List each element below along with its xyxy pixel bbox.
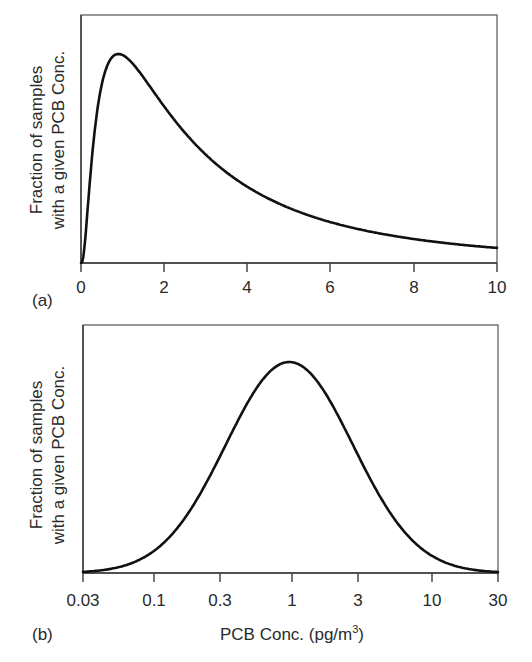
panel-b-distribution-curve <box>83 362 498 572</box>
panel-a-y-label-line1: Fraction of samples <box>27 66 46 214</box>
tick-label: 0 <box>76 278 85 297</box>
tick-label: 10 <box>423 591 442 610</box>
panel-a-distribution-curve <box>81 54 497 263</box>
panel-a-label: (a) <box>32 291 53 310</box>
panel-b-label: (b) <box>32 625 53 644</box>
tick-label: 1 <box>287 591 296 610</box>
panel-a-x-tick-labels: 0 2 4 6 8 10 <box>76 278 506 297</box>
panel-a: 0 2 4 6 8 10 Fraction of samples with a … <box>27 15 506 310</box>
panel-a-y-label-line2: with a given PCB Conc. <box>49 51 68 231</box>
tick-label: 3 <box>353 591 362 610</box>
panel-a-x-ticks <box>81 263 497 272</box>
tick-label: 8 <box>409 278 418 297</box>
panel-b-y-label-line2: with a given PCB Conc. <box>49 366 68 546</box>
tick-label: 2 <box>159 278 168 297</box>
panel-b-x-tick-labels: 0.03 0.1 0.3 1 3 10 30 <box>66 591 507 610</box>
panel-b-y-label-line1: Fraction of samples <box>27 381 46 529</box>
figure: 0 2 4 6 8 10 Fraction of samples with a … <box>0 0 532 662</box>
tick-label: 0.1 <box>142 591 166 610</box>
tick-label: 0.3 <box>208 591 232 610</box>
tick-label: 6 <box>325 278 334 297</box>
tick-label: 10 <box>488 278 507 297</box>
panel-a-plot-frame <box>81 15 497 263</box>
panel-b-x-ticks <box>83 573 498 582</box>
panel-b: 0.03 0.1 0.3 1 3 10 30 Fraction of sampl… <box>27 325 507 644</box>
tick-label: 0.03 <box>66 591 99 610</box>
panel-b-x-label: PCB Conc. (pg/m3) <box>220 623 364 644</box>
tick-label: 4 <box>242 278 251 297</box>
tick-label: 30 <box>489 591 508 610</box>
